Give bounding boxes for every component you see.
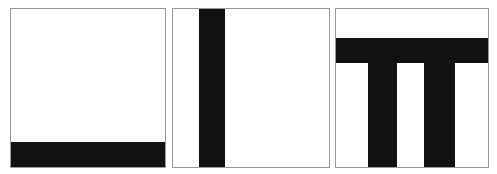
panel-1 [10,8,166,168]
panel-2 [172,8,330,168]
panel-3-top-bar [335,38,489,63]
figure-root [0,0,497,174]
panel-3-leg-right [424,38,455,168]
panel-1-bottom-bar [10,142,166,167]
panel-3-leg-left [368,38,397,168]
panel-3 [335,8,489,168]
panel-2-vertical-bar [199,8,225,168]
